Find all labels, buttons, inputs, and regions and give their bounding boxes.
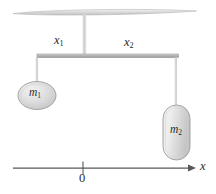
label-x2: x2 (124, 36, 134, 51)
physics-diagram-two-masses-on-beam: x1 x2 m1 m2 0 x (0, 0, 216, 194)
vertical-support-rod (83, 13, 86, 56)
label-origin: 0 (79, 172, 85, 185)
label-m2-subscript: 2 (178, 128, 182, 137)
right-string (175, 57, 177, 107)
label-x1-subscript: 1 (60, 39, 64, 48)
label-m2: m2 (170, 124, 182, 137)
left-string (36, 57, 38, 82)
label-x2-subscript: 2 (130, 41, 134, 50)
label-x1: x1 (54, 34, 64, 49)
x-axis (13, 165, 196, 172)
horizontal-beam (37, 54, 179, 58)
label-m1: m1 (29, 87, 41, 100)
label-m1-subscript: 1 (37, 91, 41, 100)
label-x-axis: x (200, 160, 206, 173)
ceiling-bar (13, 9, 197, 15)
